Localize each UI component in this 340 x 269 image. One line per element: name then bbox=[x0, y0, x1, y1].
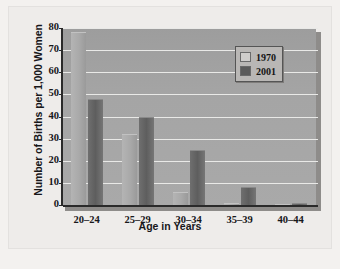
y-tick-mark bbox=[59, 205, 62, 206]
y-tick-label: 50 bbox=[37, 87, 59, 98]
x-axis-line bbox=[63, 205, 318, 207]
bar-2001-20-24 bbox=[88, 99, 103, 205]
y-tick-mark bbox=[59, 28, 62, 29]
bar-group bbox=[114, 28, 165, 205]
bar-2001-30-34 bbox=[190, 150, 205, 205]
y-tick-mark bbox=[59, 183, 62, 184]
y-tick-label: 70 bbox=[37, 43, 59, 54]
y-tick-label: 10 bbox=[37, 176, 59, 187]
y-tick-label: 30 bbox=[37, 132, 59, 143]
bar-2001-25-29 bbox=[139, 117, 154, 206]
y-tick-mark bbox=[59, 72, 62, 73]
y-axis-ticks: 01020304050607080 bbox=[35, 28, 59, 206]
legend-swatch-2001 bbox=[240, 66, 251, 76]
y-tick-mark bbox=[59, 161, 62, 162]
bar-1970-20-24 bbox=[71, 32, 86, 205]
bar-2001-35-39 bbox=[241, 187, 256, 205]
plot-area: 1970 2001 bbox=[61, 28, 316, 206]
y-tick-label: 0 bbox=[37, 198, 59, 209]
y-tick-label: 20 bbox=[37, 154, 59, 165]
bar-group bbox=[165, 28, 216, 205]
y-tick-label: 80 bbox=[37, 21, 59, 32]
chart-page: Number of Births per 1,000 Women 1970 20… bbox=[0, 0, 340, 269]
legend: 1970 2001 bbox=[235, 46, 283, 82]
legend-label-2001: 2001 bbox=[256, 66, 276, 77]
bar-1970-25-29 bbox=[122, 134, 137, 205]
y-tick-mark bbox=[59, 50, 62, 51]
legend-item-2001: 2001 bbox=[240, 64, 276, 78]
y-tick-mark bbox=[59, 139, 62, 140]
x-axis-title: Age in Years bbox=[8, 220, 332, 232]
bar-1970-30-34 bbox=[173, 192, 188, 205]
y-tick-mark bbox=[59, 94, 62, 95]
figure-panel: Number of Births per 1,000 Women 1970 20… bbox=[8, 6, 332, 249]
y-tick-mark bbox=[59, 117, 62, 118]
legend-swatch-1970 bbox=[240, 52, 251, 62]
legend-label-1970: 1970 bbox=[256, 52, 276, 63]
y-tick-label: 60 bbox=[37, 65, 59, 76]
legend-item-1970: 1970 bbox=[240, 50, 276, 64]
bar-group bbox=[63, 28, 114, 205]
plot-wrapper: 1970 2001 01020304050607080 20–2425–2930… bbox=[61, 28, 316, 210]
y-tick-label: 40 bbox=[37, 110, 59, 121]
